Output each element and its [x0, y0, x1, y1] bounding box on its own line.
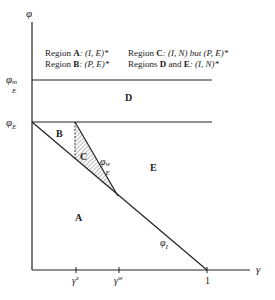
phi-e-w-label: φwE: [100, 157, 113, 167]
phi-i-curve: [32, 122, 207, 270]
x-tick-one: 1: [205, 276, 210, 286]
legend-region-d-e: Regions D and E: (I, N)*: [128, 59, 219, 69]
x-tick-gamma-w: γw: [114, 276, 123, 287]
y-tick-phi-e: φE: [6, 117, 16, 129]
legend-region-b: Region B: (P, E)*: [45, 59, 109, 69]
phi-i-label: φI: [160, 238, 168, 249]
x-tick-gamma-s: γs: [72, 276, 79, 287]
region-e-label: E: [150, 162, 157, 173]
legend-region-c: Region C: (I, N) but (P, E)*: [128, 48, 228, 58]
legend-region-a: Region A: (I, E)*: [45, 48, 109, 58]
region-d-label: D: [125, 92, 132, 103]
region-c-label: C: [80, 151, 87, 162]
region-a-label: A: [75, 212, 82, 223]
y-axis-label: φ: [26, 8, 32, 18]
x-axis-label: γ: [256, 264, 260, 274]
y-tick-phi-e-m: φmE: [6, 74, 19, 84]
diagram-canvas: [0, 0, 275, 300]
region-b-label: B: [56, 128, 63, 139]
